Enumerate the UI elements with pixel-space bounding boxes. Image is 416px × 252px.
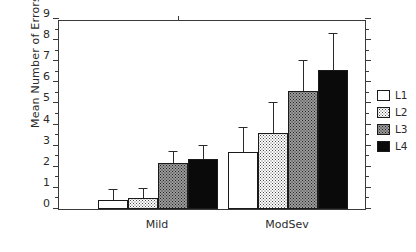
legend: L1L2L3L4 [377,88,408,156]
error-bar-cap [299,60,308,61]
bar-modsev-l1 [228,152,258,209]
error-bar-cap [269,102,278,103]
right-axis-minor-tick [365,134,369,135]
y-axis-tick [53,124,59,125]
bar-chart-figure: Mean Number of Errors 0123456789 MildMod… [0,0,416,252]
bar-mild-l3 [158,163,188,209]
y-axis-tick-label: 4 [43,112,50,125]
right-axis-minor-tick [365,29,369,30]
error-bar-cap [169,151,178,152]
right-axis-minor-tick [365,155,369,156]
bar-mild-l1 [98,200,128,210]
y-axis-minor-tick [55,197,59,198]
y-axis-minor-tick [55,92,59,93]
y-axis-tick [53,145,59,146]
right-axis-tick [365,81,371,82]
legend-label: L1 [395,90,408,101]
y-axis-minor-tick [55,50,59,51]
error-bar-cap [329,33,338,34]
error-bar-cap [199,145,208,146]
bar-mild-l4 [188,159,218,209]
right-axis-tick [365,187,371,188]
y-axis-tick-label: 0 [43,197,50,210]
top-axis-tick [178,16,179,21]
right-axis-minor-tick [365,92,369,93]
error-bar-cap [109,189,118,190]
y-axis-minor-tick [55,155,59,156]
y-axis-tick [53,39,59,40]
bar-modsev-l3 [288,91,318,209]
bar-modsev-l2 [258,133,288,209]
y-axis-tick [53,187,59,188]
right-axis-minor-tick [365,197,369,198]
y-axis-tick-label: 5 [43,91,50,104]
bar-modsev-l4 [318,70,348,209]
error-bar-modsev-l4 [333,34,334,70]
legend-swatch-l1 [377,90,390,101]
legend-label: L4 [395,141,408,152]
error-bar-modsev-l2 [273,103,274,133]
right-axis-tick [365,102,371,103]
right-axis-tick [365,124,371,125]
right-axis-tick [365,208,371,209]
y-axis-tick [53,208,59,209]
error-bar-mild-l1 [113,190,114,200]
right-axis-tick [365,60,371,61]
right-axis-minor-tick [365,113,369,114]
right-axis-tick [365,18,371,19]
legend-swatch-l4 [377,141,390,152]
right-axis-tick [365,39,371,40]
x-axis-label-modsev: ModSev [265,218,308,231]
error-bar-mild-l3 [173,152,174,163]
error-bar-mild-l2 [143,189,144,199]
legend-item-l3[interactable]: L3 [377,122,408,137]
error-bar-cap [139,188,148,189]
y-axis-tick [53,60,59,61]
error-bar-mild-l4 [203,146,204,160]
y-axis-tick [53,81,59,82]
legend-item-l4[interactable]: L4 [377,139,408,154]
legend-item-l1[interactable]: L1 [377,88,408,103]
right-axis-tick [365,145,371,146]
y-axis-tick-label: 7 [43,49,50,62]
y-axis-tick-label: 9 [43,7,50,20]
y-axis-minor-tick [55,176,59,177]
y-axis-minor-tick [55,113,59,114]
legend-swatch-l3 [377,124,390,135]
y-axis-tick-label: 3 [43,133,50,146]
legend-swatch-l2 [377,107,390,118]
legend-label: L2 [395,107,408,118]
right-axis-tick [365,166,371,167]
y-axis-tick-label: 2 [43,154,50,167]
x-axis-label-mild: Mild [146,218,169,231]
right-axis-minor-tick [365,50,369,51]
error-bar-modsev-l1 [243,128,244,152]
y-axis-tick [53,102,59,103]
y-axis-minor-tick [55,71,59,72]
y-axis-tick-label: 1 [43,175,50,188]
y-axis-tick-label: 8 [43,28,50,41]
right-axis-minor-tick [365,71,369,72]
legend-item-l2[interactable]: L2 [377,105,408,120]
y-axis-tick [53,166,59,167]
y-axis-minor-tick [55,134,59,135]
y-axis-minor-tick [55,29,59,30]
y-axis-tick [53,18,59,19]
right-axis-minor-tick [365,176,369,177]
bar-mild-l2 [128,198,158,209]
legend-label: L3 [395,124,408,135]
y-axis-tick-label: 6 [43,70,50,83]
plot-area: 0123456789 [58,20,366,210]
error-bar-cap [239,127,248,128]
error-bar-modsev-l3 [303,61,304,91]
